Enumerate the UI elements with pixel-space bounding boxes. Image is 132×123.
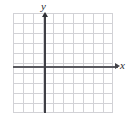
- grid-border-bottom: [13, 112, 113, 113]
- y-axis-label: y: [41, 1, 46, 12]
- grid-area: [13, 13, 113, 113]
- grid-lines: [13, 13, 113, 113]
- coordinate-plane-figure: y x: [0, 0, 132, 123]
- grid-border-right: [112, 13, 113, 113]
- y-axis-line: [44, 15, 46, 113]
- y-axis-arrow-icon: [42, 12, 48, 17]
- x-axis-line: [13, 66, 118, 68]
- x-axis-label: x: [120, 60, 125, 71]
